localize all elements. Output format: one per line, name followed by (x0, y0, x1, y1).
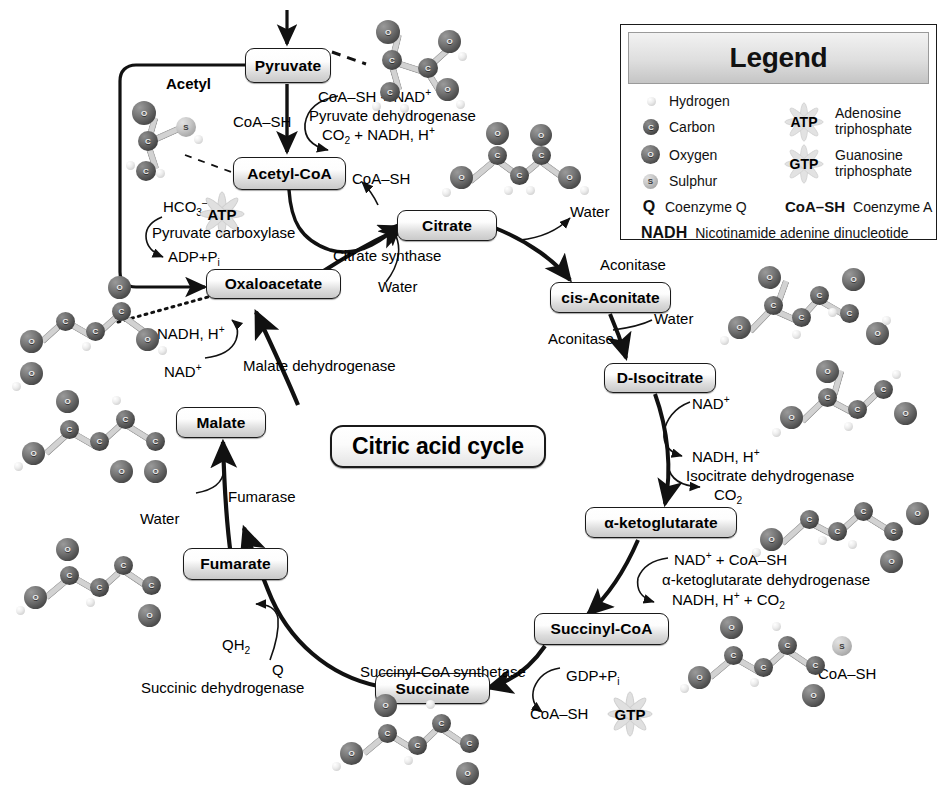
adp-pi-text: ADP+P (168, 248, 218, 265)
label-water-aconitase-2: Water (654, 310, 693, 328)
node-oxaloacetate[interactable]: Oxaloacetate (206, 269, 341, 299)
legend-oxygen-label: Oxygen (669, 147, 717, 163)
oxygen-atom-icon: O (641, 145, 660, 164)
nad-malate-text: NAD (164, 363, 196, 380)
akg-out-text: NADH, H (672, 591, 734, 608)
qh2-text: QH (222, 636, 245, 653)
arrow-isocitrate-to-akg (655, 394, 668, 504)
legend-item-gtp: GTP Guanosine triphosphate (781, 143, 912, 185)
molecule-malate: O C O C C C O O (10, 388, 172, 492)
legend-hydrogen-label: Hydrogen (669, 93, 730, 109)
arrow-acetylcoa-to-citrate (289, 190, 400, 252)
carbon-atom-icon: C (643, 119, 659, 135)
atp-label: ATP (208, 206, 237, 223)
label-aconitase-1: Aconitase (600, 256, 666, 274)
curve-mdh-nad-in (205, 340, 236, 358)
molecule-oxaloacetate: O C O C C O O (8, 288, 168, 388)
gdp-pi-text: GDP+P (566, 667, 617, 684)
label-aconitase-2: Aconitase (548, 330, 614, 348)
legend-nadh-label: Nicotinamide adenine dinucleotide (695, 225, 908, 241)
legend-coa-label: Coenzyme A (853, 199, 932, 215)
legend-carbon-label: Carbon (669, 119, 715, 135)
label-coa-sh-citrate: CoA–SH (352, 170, 410, 188)
label-water-fumarase: Water (140, 510, 179, 528)
legend-coenzyme-q-label: Coenzyme Q (665, 199, 747, 215)
legend-item-atp: ATP Adenosine triphosphate (781, 101, 912, 143)
label-akg-outputs: NADH, H+ + CO2 (672, 591, 785, 609)
label-succinic-dehydrogenase: Succinic dehydrogenase (141, 679, 304, 697)
curve-idh-nad-in (664, 402, 690, 432)
legend-atp-symbol: ATP (791, 114, 818, 130)
legend-gtp-symbol: GTP (790, 156, 819, 172)
akg-out-sub: 2 (779, 600, 785, 611)
coenzyme-q-symbol: Q (641, 198, 657, 216)
legend-item-sulphur: S Sulphur (643, 173, 717, 189)
legend-item-oxygen: O Oxygen (641, 145, 717, 164)
nadh-isocitrate-charge: + (754, 447, 760, 458)
arrow-citrate-to-cisaconitate (495, 228, 570, 280)
label-co2-isocitrate: CO2 (714, 486, 742, 504)
label-nadh-isocitrate: NADH, H+ (692, 448, 760, 466)
molecule-succinyl-coa: O C O C C C O S (676, 612, 832, 716)
citric-acid-cycle-diagram: Pyruvate Acetyl-CoA Oxaloacetate Citrate… (0, 0, 946, 795)
legend-item-nadh: NADH Nicotinamide adenine dinucleotide (641, 224, 908, 242)
node-succinyl-coa[interactable]: Succinyl-CoA (534, 613, 669, 645)
legend-atp-line1: Adenosine (835, 106, 912, 122)
legend-item-carbon: C Carbon (643, 119, 715, 135)
legend-item-hydrogen: Hydrogen (643, 93, 730, 109)
label-succinyl-coa-synthetase: Succinyl-CoA synthetase (360, 663, 526, 681)
label-qh2: QH2 (222, 636, 250, 654)
qh2-sub: 2 (245, 645, 251, 656)
label-adp-pi: ADP+Pi (168, 248, 220, 266)
center-title: Citric acid cycle (330, 425, 546, 468)
akg-in-text: NAD (674, 551, 706, 568)
nadh-isocitrate-text: NADH, H (692, 448, 754, 465)
node-fumarate[interactable]: Fumarate (183, 548, 288, 580)
label-q: Q (272, 661, 284, 679)
legend-nadh-symbol: NADH (641, 224, 687, 242)
akg-out-rest: + CO (740, 591, 780, 608)
gdp-pi-sub: i (617, 676, 619, 687)
molecule-fumarate: O C O C C C O (12, 538, 170, 634)
nad-isocitrate-charge: + (724, 394, 730, 405)
molecule-citrate: O C O C C O O (440, 122, 590, 214)
label-water-citrate-synthase: Water (378, 278, 417, 296)
nadh-malate-charge: + (219, 324, 225, 335)
nad-malate-charge: + (196, 362, 202, 373)
legend-coa-symbol: CoA–SH (785, 198, 845, 215)
molecule-isocitrate: O C O C C O (768, 358, 928, 468)
curve-water-in-aconitase2 (613, 320, 652, 330)
label-pdh-outputs: CO2 + NADH, H+ (322, 126, 435, 144)
node-d-isocitrate[interactable]: D-Isocitrate (604, 363, 716, 393)
curve-sdh-qh2-out (256, 604, 278, 618)
label-fumarase: Fumarase (228, 488, 296, 506)
molecule-alpha-ketoglutarate: O C C C C O O (748, 478, 928, 578)
label-coa-sh-gtp: CoA–SH (530, 705, 588, 723)
gtp-burst-legend-icon: GTP (781, 143, 827, 185)
nad-isocitrate-text: NAD (692, 395, 724, 412)
node-acetyl-coa[interactable]: Acetyl-CoA (233, 157, 346, 190)
curve-mdh-nadh-out (232, 320, 238, 340)
sulphur-atom-icon: S (643, 174, 658, 189)
curve-sdh-q-in (270, 618, 278, 660)
curve-water-out-aconitase1 (520, 218, 570, 240)
gtp-burst-icon: GTP (604, 690, 656, 738)
co2-isocitrate-sub: 2 (737, 495, 743, 506)
label-gdp-pi: GDP+Pi (566, 667, 620, 685)
adp-pi-sub: i (218, 257, 220, 268)
node-citrate[interactable]: Citrate (397, 210, 497, 241)
node-alpha-ketoglutarate[interactable]: α-ketoglutarate (585, 507, 737, 538)
node-malate[interactable]: Malate (176, 407, 266, 438)
node-cis-aconitate[interactable]: cis-Aconitate (550, 282, 671, 313)
label-malate-dehydrogenase: Malate dehydrogenase (243, 357, 396, 375)
co2-isocitrate-text: CO (714, 486, 737, 503)
label-citrate-synthase: Citrate synthase (333, 247, 441, 265)
node-pyruvate[interactable]: Pyruvate (245, 48, 331, 83)
label-nad-malate: NAD+ (164, 363, 202, 381)
legend-atp-line2: triphosphate (835, 122, 912, 138)
hydrogen-atom-icon (647, 97, 656, 106)
label-acetyl: Acetyl (166, 75, 211, 93)
curve-scs-gdp-in (534, 668, 560, 688)
molecule-pyruvate: O C C C O O (352, 18, 464, 128)
molecule-acetyl: O C S C (118, 95, 228, 181)
